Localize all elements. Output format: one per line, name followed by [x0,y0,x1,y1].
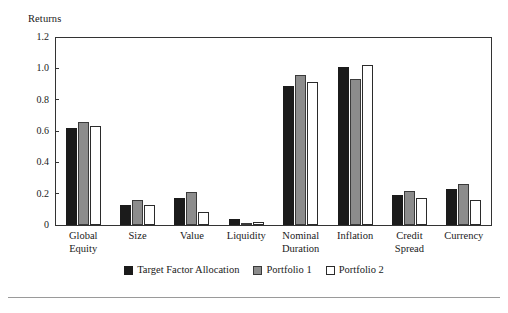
legend-swatch-icon [253,266,262,275]
bar [283,86,294,225]
bar [90,126,101,225]
x-tick-label: Nominal Duration [274,230,328,255]
legend-item[interactable]: Target Factor Allocation [124,264,239,276]
chart-legend: Target Factor AllocationPortfolio 1Portf… [0,264,508,276]
bar [470,200,481,225]
x-tick-label: Global Equity [56,230,110,255]
bar [307,82,318,225]
returns-bar-chart-figure: Returns 00.20.40.60.81.01.2 Global Equit… [0,0,508,313]
bar [392,195,403,225]
x-axis-category-labels: Global EquitySizeValueLiquidityNominal D… [56,230,491,264]
x-tick-label: Liquidity [219,230,273,243]
bar [66,128,77,225]
bar [229,219,240,225]
bar-group [165,37,219,225]
bar [458,184,469,225]
legend-swatch-icon [124,266,133,275]
x-tick-label: Credit Spread [382,230,436,255]
bar [446,189,457,225]
bar [362,65,373,225]
bar [416,198,427,225]
y-axis-title: Returns [28,13,61,24]
bar [78,122,89,225]
legend-swatch-icon [326,266,335,275]
legend-item[interactable]: Portfolio 2 [326,264,384,276]
x-tick-label: Value [165,230,219,243]
legend-item[interactable]: Portfolio 1 [253,264,311,276]
x-tick-label: Currency [437,230,491,243]
bar [253,222,264,225]
bar-group [328,37,382,225]
legend-label: Target Factor Allocation [137,264,239,276]
bar [241,223,252,225]
bar [350,79,361,225]
bar-group [110,37,164,225]
bar [174,198,185,225]
bar-group [437,37,491,225]
bar [198,212,209,225]
bar [338,67,349,225]
bars-layer [56,37,491,225]
bar [144,205,155,225]
bar-group [56,37,110,225]
bar-group [382,37,436,225]
legend-label: Portfolio 2 [339,264,384,276]
bottom-divider-rule [8,297,500,298]
x-tick-label: Size [110,230,164,243]
x-tick-label: Inflation [328,230,382,243]
bar [132,200,143,225]
bar [186,192,197,225]
legend-label: Portfolio 1 [266,264,311,276]
bar [295,75,306,225]
bar [404,191,415,225]
bar-group [274,37,328,225]
bar-group [219,37,273,225]
bar [120,205,131,225]
